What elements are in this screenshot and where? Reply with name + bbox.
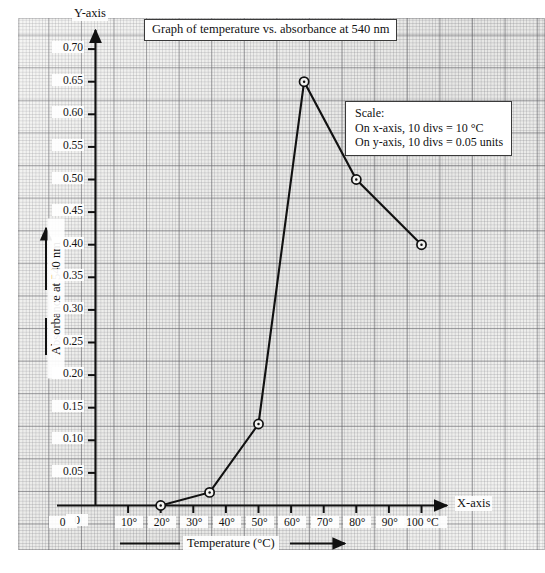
y-tick-label: 0.50 bbox=[52, 172, 84, 184]
x-tick-label: 20° bbox=[148, 516, 176, 528]
y-tick-label: 0.65 bbox=[52, 74, 84, 86]
y-tick-label: 0.30 bbox=[52, 302, 84, 314]
y-tick-label: 0.60 bbox=[52, 106, 84, 118]
y-axis-name: Y-axis bbox=[72, 6, 108, 21]
chart-title-box: Graph of temperature vs. absorbance at 5… bbox=[144, 19, 397, 41]
y-tick-label: 0.45 bbox=[52, 204, 84, 216]
y-tick-label: 0.55 bbox=[52, 139, 84, 151]
y-tick-label: 0.10 bbox=[52, 432, 84, 444]
y-tick-label: 0.15 bbox=[52, 400, 84, 412]
x-tick-label: 50° bbox=[246, 516, 274, 528]
scale-x-line: On x-axis, 10 divs = 10 °C bbox=[355, 121, 503, 136]
y-tick-label: 0.25 bbox=[52, 335, 84, 347]
scale-y-line: On y-axis, 10 divs = 0.05 units bbox=[355, 135, 503, 150]
y-axis-ticks bbox=[88, 49, 96, 473]
scale-heading: Scale: bbox=[355, 106, 503, 121]
x-tick-label: 70° bbox=[311, 516, 339, 528]
y-tick-label: 0.40 bbox=[52, 237, 84, 249]
x-axis-name: X-axis bbox=[455, 496, 492, 511]
x-tick-label: 100 °C bbox=[399, 516, 447, 528]
y-tick-label: 0.20 bbox=[52, 367, 84, 379]
x-axis-ticks bbox=[128, 506, 421, 514]
y-tick-label: 0.70 bbox=[52, 41, 84, 53]
x-tick-label: 10° bbox=[115, 516, 143, 528]
chart-title: Graph of temperature vs. absorbance at 5… bbox=[152, 22, 389, 36]
y-tick-label: 0.35 bbox=[52, 269, 84, 281]
x-tick-label: 0 bbox=[49, 516, 77, 528]
x-tick-label: 80° bbox=[343, 516, 371, 528]
scale-legend-box: Scale: On x-axis, 10 divs = 10 °C On y-a… bbox=[345, 101, 512, 156]
y-tick-label: 0.05 bbox=[52, 465, 84, 477]
x-tick-label: 40° bbox=[213, 516, 241, 528]
x-tick-label: 30° bbox=[180, 516, 208, 528]
x-tick-label: 60° bbox=[278, 516, 306, 528]
x-axis-caption: Temperature (°C) bbox=[183, 536, 279, 551]
